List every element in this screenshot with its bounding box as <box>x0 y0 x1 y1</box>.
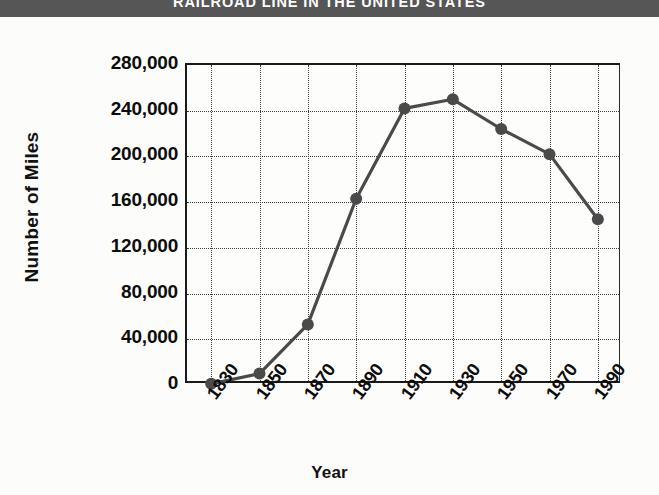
series-markers <box>205 93 604 390</box>
data-point-marker <box>350 193 362 205</box>
series-polyline <box>211 99 598 384</box>
y-tick-label: 280,000 <box>38 52 178 74</box>
data-point-marker <box>399 102 411 114</box>
chart-title: RAILROAD LINE IN THE UNITED STATES <box>0 0 659 10</box>
y-tick-label: 160,000 <box>38 189 178 211</box>
chart-figure: RAILROAD LINE IN THE UNITED STATES Numbe… <box>0 0 659 495</box>
chart-title-banner: RAILROAD LINE IN THE UNITED STATES <box>0 0 659 17</box>
y-tick-label: 80,000 <box>38 281 178 303</box>
y-tick-label: 40,000 <box>38 326 178 348</box>
data-point-marker <box>495 123 507 135</box>
y-tick-label: 120,000 <box>38 235 178 257</box>
y-tick-label: 240,000 <box>38 98 178 120</box>
x-axis-title: Year <box>0 463 659 483</box>
data-point-marker <box>302 318 314 330</box>
y-tick-label: 0 <box>38 372 178 394</box>
plot-area <box>185 63 620 383</box>
y-axis-tick-labels: 040,00080,000120,000160,000200,000240,00… <box>35 63 178 383</box>
data-point-marker <box>447 93 459 105</box>
x-axis-tick-labels: 183018501870189019101930195019701990 <box>185 383 620 463</box>
y-tick-label: 200,000 <box>38 143 178 165</box>
data-point-marker <box>544 148 556 160</box>
data-point-marker <box>592 213 604 225</box>
series-line-chart <box>187 65 622 385</box>
